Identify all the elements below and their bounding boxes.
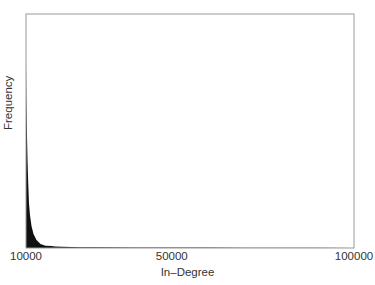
x-axis-label: In–Degree: [0, 266, 375, 278]
x-tick-label: 10000: [10, 250, 42, 262]
y-axis-label: Frequency: [2, 76, 14, 130]
chart-canvas: [0, 0, 375, 285]
x-tick-label: 100000: [335, 250, 373, 262]
x-tick-label: 50000: [156, 250, 188, 262]
distribution-area: [26, 61, 354, 248]
plot-frame: [26, 14, 354, 248]
